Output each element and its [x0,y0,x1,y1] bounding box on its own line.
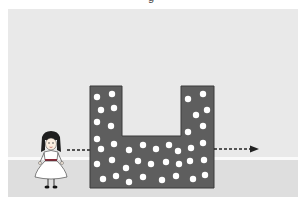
block-dot [159,177,165,183]
block-dot [108,123,114,129]
block-dot [140,142,146,148]
block-dot [111,105,117,111]
block-dot [153,146,159,152]
block-dot [166,142,172,148]
girl-shoe-right [53,186,58,189]
block-dot [111,141,117,147]
diagram-scene [0,0,302,224]
block-dot [135,158,141,164]
block-dot [193,112,199,118]
block-dot [185,96,191,102]
block-dot [140,174,146,180]
block-dot [109,91,115,97]
block-dot [201,157,207,163]
block-dot [200,123,206,129]
block-dot [200,140,206,146]
girl-shoe-left [45,186,50,189]
block-dot [175,148,181,154]
block-dot [113,173,119,179]
block-dot [173,173,179,179]
block-dot [94,161,100,167]
block-dot [163,159,169,165]
block-dot [126,147,132,153]
block-dot [94,94,100,100]
block-dot [100,176,106,182]
block-dot [185,129,191,135]
block-dot [204,107,210,113]
block-dot [190,176,196,182]
block-dot [94,136,100,142]
block-dot [176,161,182,167]
block-dot [188,145,194,151]
block-dot [126,179,132,185]
block-dot [123,165,129,171]
girl-face [46,138,57,150]
block-dot [200,91,206,97]
block-dot [148,161,154,167]
girl-bodice [44,151,58,161]
block-dot [98,146,104,152]
block-dot [109,157,115,163]
block-dot [187,158,193,164]
block-dot [98,107,104,113]
block-dot [94,119,100,125]
block-dot [202,172,208,178]
